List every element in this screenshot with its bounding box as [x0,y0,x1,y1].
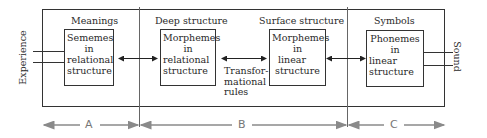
header-symbols: Symbols [374,15,415,26]
experience-label: Experience [17,30,28,86]
sememes-box: Sememes in relational structure [64,29,114,86]
phonemes-box: Phonemes in linear structure [366,30,424,87]
zone-c-label: C [390,119,398,131]
zone-b-label: B [238,119,246,131]
transformational-rules-label: Transfor- mational rules [224,66,269,98]
header-surface-structure: Surface structure [259,15,344,26]
zone-a-label: A [85,119,93,131]
deep-morphemes-box: Morphemes in relational structure [160,29,216,86]
header-deep-structure: Deep structure [155,15,228,26]
header-meanings: Meanings [71,15,118,26]
sound-label: Sound [452,40,463,74]
surface-morphemes-box: Morphemes in linear structure [269,29,326,86]
